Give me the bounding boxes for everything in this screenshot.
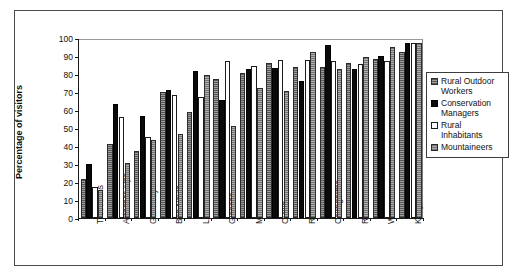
x-axis-tick-mark [184,218,185,221]
bar-group [320,40,343,218]
y-axis-tick-label: 90 [15,53,73,62]
x-axis-tick-mark [423,218,424,221]
bar[interactable] [151,140,156,218]
y-axis-tick-label: 0 [15,215,73,224]
bar[interactable] [81,179,86,218]
y-axis-tick-label: 20 [15,179,73,188]
bar[interactable] [331,61,336,218]
bar[interactable] [86,164,91,218]
bar[interactable] [204,75,209,218]
chart-legend: Rural Outdoor WorkersConservation Manage… [426,72,509,158]
legend-item[interactable]: Rural Outdoor Workers [431,77,505,96]
bar[interactable] [405,43,410,219]
bar[interactable] [416,43,421,218]
bar[interactable] [160,92,165,218]
y-axis-tick-label: 80 [15,71,73,80]
legend-swatch-icon [431,78,438,85]
bar[interactable] [411,43,416,218]
bar[interactable] [378,56,383,218]
bar[interactable] [246,69,251,218]
bar[interactable] [119,117,124,218]
bar[interactable] [299,81,304,218]
bar[interactable] [346,63,351,218]
bar[interactable] [178,134,183,218]
y-axis-line [78,39,79,219]
bar[interactable] [284,91,289,218]
bar-group [266,40,289,218]
bar-group [160,40,183,218]
x-axis-tick-mark [237,218,238,221]
legend-item[interactable]: Mountaineers [431,143,505,153]
bar[interactable] [240,73,245,218]
bar[interactable] [113,104,118,218]
x-axis-tick-mark [290,218,291,221]
bar-group [213,40,236,218]
bar[interactable] [325,45,330,218]
x-axis-tick-mark [396,218,397,221]
bar[interactable] [172,95,177,218]
legend-swatch-icon [431,100,438,107]
bar-group [293,40,316,218]
legend-item-label: Rural Outdoor Workers [441,77,505,96]
figure-canvas: Percentage of visitors 01020304050607080… [0,0,518,280]
y-axis-tick-label: 60 [15,107,73,116]
bar-group [107,40,130,218]
bar[interactable] [107,144,112,218]
bar[interactable] [352,69,357,218]
legend-swatch-icon [431,144,438,151]
bar[interactable] [125,163,130,218]
y-axis-tick-label: 10 [15,197,73,206]
bar-group [134,40,157,218]
bar[interactable] [293,67,298,218]
legend-item-label: Rural Inhabitants [441,121,505,140]
bar[interactable] [266,63,271,218]
bar[interactable] [219,100,224,218]
bar-group [240,40,263,218]
bar[interactable] [225,61,230,218]
bar-group [399,40,422,218]
bar[interactable] [358,64,363,218]
bar[interactable] [251,66,256,218]
bar[interactable] [278,60,283,218]
figure-border: Percentage of visitors 01020304050607080… [14,10,503,266]
bar[interactable] [363,57,368,218]
bar[interactable] [145,137,150,218]
y-axis-tick-label: 40 [15,143,73,152]
bar[interactable] [390,47,395,218]
bar[interactable] [193,71,198,218]
y-axis-tick-label: 30 [15,161,73,170]
bar[interactable] [337,69,342,218]
x-axis-tick-mark [131,218,132,221]
bar-group [373,40,396,218]
plot-area [78,39,423,219]
legend-item-label: Mountaineers [441,143,493,153]
bar[interactable] [198,97,203,218]
bar[interactable] [140,116,145,218]
bar-group [81,40,104,218]
y-axis-tick-label: 50 [15,125,73,134]
legend-item-label: Conservation Managers [441,99,505,118]
legend-item[interactable]: Rural Inhabitants [431,121,505,140]
bar[interactable] [187,112,192,218]
bar[interactable] [257,88,262,218]
bar[interactable] [166,90,171,218]
bar-group [346,40,369,218]
y-axis-tick-label: 70 [15,89,73,98]
bar[interactable] [320,67,325,218]
y-axis-tick-label: 100 [15,35,73,44]
bar[interactable] [310,52,315,218]
bar[interactable] [399,52,404,218]
legend-item[interactable]: Conservation Managers [431,99,505,118]
bar[interactable] [272,68,277,218]
x-axis-tick-mark [370,218,371,221]
bar[interactable] [231,126,236,218]
bar[interactable] [98,190,103,218]
bar[interactable] [134,151,139,218]
bar[interactable] [373,59,378,218]
bar[interactable] [305,60,310,218]
bar[interactable] [384,61,389,218]
bar[interactable] [92,187,97,218]
x-axis-tick-mark [343,218,344,221]
bar[interactable] [213,79,218,218]
x-axis-tick-mark [78,218,79,221]
